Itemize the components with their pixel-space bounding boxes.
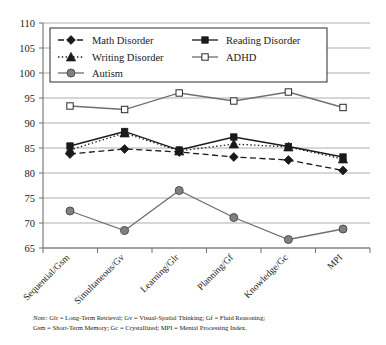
marker-open-square — [202, 54, 208, 60]
open-square-marker — [340, 104, 346, 110]
y-tick-label-105: 105 — [19, 43, 35, 54]
open-square-marker — [285, 89, 291, 95]
marker-open-square — [340, 104, 346, 110]
series-adhd — [67, 89, 346, 113]
legend-label: ADHD — [226, 52, 257, 63]
y-tick-label-110: 110 — [20, 18, 35, 29]
chart-legend: Math DisorderReading DisorderWriting Dis… — [50, 28, 327, 82]
marker-filled-triangle — [229, 139, 238, 148]
note-label: Note: — [32, 314, 48, 321]
marker-filled-circle — [66, 207, 74, 215]
x-tick-label-5: MPI — [325, 252, 344, 271]
marker-filled-diamond — [284, 156, 293, 165]
x-tick-label-2: Learning/Glr — [138, 252, 181, 295]
series-autism — [66, 187, 347, 244]
y-tick-label-100: 100 — [19, 68, 35, 79]
y-tick-label-85: 85 — [25, 143, 36, 154]
marker-open-square — [121, 106, 127, 112]
marker-filled-circle — [230, 214, 238, 222]
circle-marker — [230, 214, 238, 222]
circle-marker — [284, 236, 292, 244]
series-writing-disorder — [65, 128, 347, 163]
y-tick-label-95: 95 — [25, 93, 36, 104]
series-reading-disorder — [67, 128, 346, 160]
y-tick-label-75: 75 — [25, 193, 36, 204]
note-line-2: Gsm = Short-Term Memory; Gc = Crystalliz… — [33, 324, 247, 331]
marker-open-square — [285, 89, 291, 95]
marker-open-square — [231, 98, 237, 104]
diamond-marker — [339, 166, 348, 175]
legend-label: Math Disorder — [92, 35, 154, 46]
legend-label: Autism — [92, 68, 123, 79]
marker-filled-square — [202, 37, 208, 43]
circle-marker — [175, 187, 183, 195]
open-square-marker — [67, 103, 73, 109]
circle-marker — [66, 207, 74, 215]
marker-open-square — [67, 103, 73, 109]
marker-filled-circle — [339, 225, 347, 233]
triangle-marker — [229, 139, 238, 148]
x-tick-label-4: Knowledge/Gc — [242, 252, 290, 300]
open-square-marker — [231, 98, 237, 104]
circle-marker — [121, 227, 129, 235]
marker-filled-circle — [284, 236, 292, 244]
chart-figure: 65707580859095100105110 Sequential/GsmSi… — [0, 0, 386, 345]
circle-marker — [67, 69, 75, 77]
series-line — [70, 149, 343, 171]
x-tick-label-3: Planning/Gf — [195, 252, 236, 293]
marker-filled-circle — [175, 187, 183, 195]
x-tick-label-0: Sequential/Gsm — [21, 252, 71, 302]
square-marker — [202, 37, 208, 43]
chart-note: Note: Glr = Long-Term Retrieval; Gv = Vi… — [32, 314, 265, 331]
legend-label: Reading Disorder — [226, 35, 301, 46]
series-line — [70, 92, 343, 110]
marker-filled-diamond — [120, 145, 129, 154]
x-axis-tick-labels: Sequential/GsmSimultaneous/GvLearning/Gl… — [21, 252, 344, 306]
note-line-1-text: Glr = Long-Term Retrieval; Gv = Visual-S… — [48, 314, 266, 321]
marker-open-square — [176, 90, 182, 96]
marker-filled-circle — [121, 227, 129, 235]
diamond-marker — [229, 153, 238, 162]
note-line-1: Note: Glr = Long-Term Retrieval; Gv = Vi… — [32, 314, 265, 321]
legend-label: Writing Disorder — [92, 52, 164, 63]
y-tick-label-90: 90 — [25, 118, 36, 129]
marker-filled-diamond — [229, 153, 238, 162]
open-square-marker — [176, 90, 182, 96]
diamond-marker — [284, 156, 293, 165]
y-axis-tick-labels: 65707580859095100105110 — [19, 18, 35, 254]
open-square-marker — [202, 54, 208, 60]
diamond-marker — [120, 145, 129, 154]
y-tick-label-65: 65 — [25, 243, 36, 254]
line-chart: 65707580859095100105110 Sequential/GsmSi… — [0, 0, 386, 345]
y-tick-label-70: 70 — [25, 218, 36, 229]
y-tick-label-80: 80 — [25, 168, 36, 179]
open-square-marker — [121, 106, 127, 112]
series-line — [70, 132, 343, 158]
circle-marker — [339, 225, 347, 233]
marker-filled-circle — [67, 69, 75, 77]
series-layer — [65, 89, 347, 244]
marker-filled-diamond — [339, 166, 348, 175]
x-tick-label-1: Simultaneous/Gv — [72, 252, 126, 306]
